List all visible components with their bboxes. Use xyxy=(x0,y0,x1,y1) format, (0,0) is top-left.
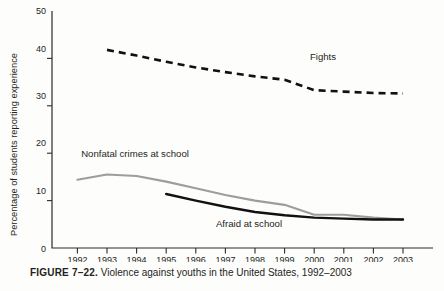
x-tick-label-1998: 1998 xyxy=(245,255,265,262)
x-tick-label-1995: 1995 xyxy=(156,255,176,262)
series-label-nonfatal-crimes: Nonfatal crimes at school xyxy=(81,148,189,159)
series-line-afraid-at-school xyxy=(166,194,403,220)
x-tick-label-1997: 1997 xyxy=(215,255,235,262)
y-tick-label-0: 0 xyxy=(41,244,46,254)
figure-number: FIGURE 7–22. xyxy=(30,267,98,278)
y-tick-label-50: 50 xyxy=(36,6,46,16)
line-chart: Percentage of students reporting experie… xyxy=(0,0,444,262)
y-tick-label-10: 10 xyxy=(36,186,46,196)
x-tick-label-1996: 1996 xyxy=(186,255,206,262)
chart-plot-area: Percentage of students reporting experie… xyxy=(0,0,444,262)
series-label-fights: Fights xyxy=(310,51,336,62)
series-line-fights xyxy=(107,50,403,94)
x-tick-label-2001: 2001 xyxy=(334,255,354,262)
x-tick-label-2003: 2003 xyxy=(393,255,413,262)
x-tick-label-1993: 1993 xyxy=(97,255,117,262)
y-tick-label-20: 20 xyxy=(36,138,46,148)
axis-lines xyxy=(52,11,433,248)
x-tick-label-1992: 1992 xyxy=(67,255,87,262)
y-tick-label-40: 40 xyxy=(36,44,46,54)
x-tick-label-1994: 1994 xyxy=(127,255,147,262)
x-tick-label-1999: 1999 xyxy=(275,255,295,262)
figure-container: Percentage of students reporting experie… xyxy=(0,0,444,291)
y-tick-label-30: 30 xyxy=(36,91,46,101)
x-tick-label-2000: 2000 xyxy=(304,255,324,262)
figure-caption: FIGURE 7–22. Violence against youths in … xyxy=(30,266,430,280)
y-axis-title: Percentage of students reporting experie… xyxy=(9,53,19,236)
figure-caption-text: Violence against youths in the United St… xyxy=(98,267,352,278)
series-label-afraid-at-school: Afraid at school xyxy=(216,218,282,229)
x-tick-label-2002: 2002 xyxy=(363,255,383,262)
series-line-nonfatal-crimes xyxy=(77,175,403,220)
